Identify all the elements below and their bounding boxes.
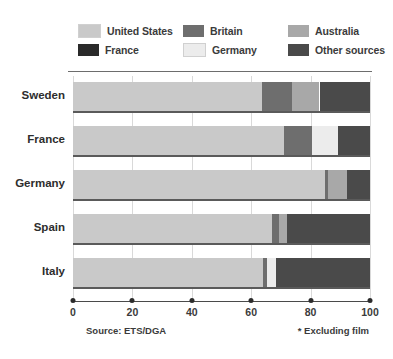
category-label-sweden: Sweden <box>0 89 65 101</box>
bar-segment-other-sources[interactable] <box>276 258 370 287</box>
category-label-france: France <box>0 133 65 145</box>
legend-item-britain[interactable]: Britain <box>183 21 288 40</box>
excluding-film-note: * Excluding film <box>298 325 369 336</box>
bar-segment-united-states[interactable] <box>73 82 262 111</box>
legend-swatch-germany <box>183 43 206 57</box>
legend-item-other-sources[interactable]: Other sources <box>288 40 393 59</box>
x-tick-dot <box>308 298 313 303</box>
bar-segment-united-states[interactable] <box>73 258 263 287</box>
category-label-spain: Spain <box>0 221 65 233</box>
bar-baseline <box>73 155 370 157</box>
legend-label: France <box>105 44 139 56</box>
stacked-bar-italy[interactable] <box>73 258 370 287</box>
bar-segment-united-states[interactable] <box>73 214 272 243</box>
x-tick-label: 100 <box>361 306 379 318</box>
bar-row: Spain <box>73 208 370 252</box>
x-tick-label: 80 <box>305 306 317 318</box>
source-note: Source: ETS/DGA <box>86 325 166 336</box>
x-tick-label: 60 <box>245 306 257 318</box>
x-tick-dot <box>368 298 373 303</box>
bar-baseline <box>73 243 370 245</box>
gridline <box>370 76 371 298</box>
bar-baseline <box>73 111 370 113</box>
plot-area: SwedenFranceGermanySpainItaly <box>73 76 370 298</box>
bar-row: France <box>73 120 370 164</box>
legend-item-france[interactable]: France <box>78 40 183 59</box>
bar-segment-australia[interactable] <box>292 82 320 111</box>
legend-label: Britain <box>210 25 243 37</box>
bar-segment-australia[interactable] <box>328 170 347 199</box>
legend-swatch-britain <box>183 25 204 37</box>
legend-item-germany[interactable]: Germany <box>183 40 288 59</box>
x-tick-label: 20 <box>127 306 139 318</box>
bar-segment-australia[interactable] <box>279 214 287 243</box>
plot-top-rule <box>68 71 372 72</box>
bar-segment-germany[interactable] <box>267 258 276 287</box>
x-tick-dot <box>71 298 76 303</box>
x-tick-label: 0 <box>70 306 76 318</box>
stacked-bar-france[interactable] <box>73 126 370 155</box>
bar-segment-britain[interactable] <box>262 82 292 111</box>
bar-segment-united-states[interactable] <box>73 170 325 199</box>
bar-baseline <box>73 287 370 289</box>
stacked-bar-sweden[interactable] <box>73 82 370 111</box>
category-label-italy: Italy <box>0 265 65 277</box>
x-tick-dot <box>249 298 254 303</box>
legend-label: United States <box>107 25 173 37</box>
legend-item-united-states[interactable]: United States <box>78 21 183 40</box>
x-axis-line <box>73 301 372 302</box>
legend-label: Australia <box>315 25 359 37</box>
x-tick-label: 40 <box>186 306 198 318</box>
bar-segment-other-sources[interactable] <box>338 126 370 155</box>
category-label-germany: Germany <box>0 177 65 189</box>
bar-segment-other-sources[interactable] <box>347 170 370 199</box>
legend-swatch-australia <box>288 25 309 37</box>
bar-segment-united-states[interactable] <box>73 126 284 155</box>
legend-item-australia[interactable]: Australia <box>288 21 393 40</box>
stacked-bar-germany[interactable] <box>73 170 370 199</box>
legend-swatch-france <box>78 44 99 56</box>
chart-legend: United StatesBritainAustraliaFranceGerma… <box>78 21 378 59</box>
legend-label: Germany <box>212 44 257 56</box>
bar-segment-britain[interactable] <box>284 126 312 155</box>
chart-container: United StatesBritainAustraliaFranceGerma… <box>0 0 393 359</box>
x-tick-dot <box>189 298 194 303</box>
legend-swatch-united-states <box>78 24 101 38</box>
stacked-bar-spain[interactable] <box>73 214 370 243</box>
bar-row: Sweden <box>73 76 370 120</box>
bar-row: Italy <box>73 252 370 296</box>
bar-segment-germany[interactable] <box>312 126 338 155</box>
legend-label: Other sources <box>315 44 385 56</box>
legend-swatch-other-sources <box>288 44 309 56</box>
bar-segment-britain[interactable] <box>272 214 279 243</box>
bar-segment-other-sources[interactable] <box>287 214 370 243</box>
bar-segment-other-sources[interactable] <box>320 82 370 111</box>
bar-row: Germany <box>73 164 370 208</box>
x-tick-dot <box>130 298 135 303</box>
bar-baseline <box>73 199 370 201</box>
